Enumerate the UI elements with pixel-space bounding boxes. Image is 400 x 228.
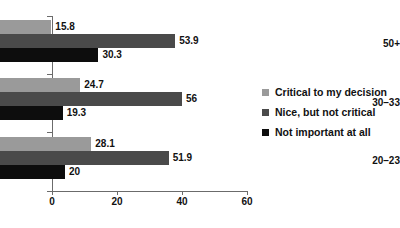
bar-row: 51.9 (0, 151, 400, 165)
bar-critical-to-my-decision[interactable] (0, 78, 80, 92)
x-axis-tick (182, 191, 183, 195)
bar-nice-but-not-critical[interactable] (0, 34, 175, 48)
x-axis-tick (247, 191, 248, 195)
bar-chart: 0 20 40 60 50+ 30–33 20–23 15.8 53.9 30.… (0, 0, 400, 228)
bar-value-label: 30.3 (98, 48, 121, 62)
bar-row: 30.3 (0, 48, 400, 62)
legend-item-label: Critical to my decision (275, 87, 387, 98)
legend-swatch-icon (262, 89, 269, 96)
bar-value-label: 24.7 (80, 78, 103, 92)
bar-value-label: 53.9 (175, 34, 198, 48)
bar-row: 20 (0, 165, 400, 179)
legend-item-not-important-at-all[interactable]: Not important at all (262, 122, 387, 142)
bar-value-label: 15.8 (51, 20, 74, 34)
x-axis-tick (117, 191, 118, 195)
chart-legend: Critical to my decision Nice, but not cr… (262, 82, 387, 142)
legend-swatch-icon (262, 129, 269, 136)
x-axis-tick-label: 60 (241, 196, 252, 207)
bar-row: 53.9 (0, 34, 400, 48)
bar-value-label: 56 (182, 92, 197, 106)
bar-critical-to-my-decision[interactable] (0, 137, 91, 151)
y-axis-tick (47, 132, 52, 133)
legend-item-label: Nice, but not critical (275, 107, 375, 118)
bar-nice-but-not-critical[interactable] (0, 92, 182, 106)
legend-item-nice-but-not-critical[interactable]: Nice, but not critical (262, 102, 387, 122)
bar-row: 15.8 (0, 20, 400, 34)
legend-swatch-icon (262, 109, 269, 116)
x-axis-tick (52, 191, 53, 195)
bar-value-label: 19.3 (63, 106, 86, 120)
y-axis-tick (47, 74, 52, 75)
bar-group: 28.1 51.9 20 (0, 137, 400, 179)
legend-item-label: Not important at all (275, 127, 371, 138)
bar-nice-but-not-critical[interactable] (0, 151, 169, 165)
bar-not-important-at-all[interactable] (0, 48, 98, 62)
x-axis-tick-label: 40 (176, 196, 187, 207)
bar-not-important-at-all[interactable] (0, 106, 63, 120)
legend-item-critical-to-my-decision[interactable]: Critical to my decision (262, 82, 387, 102)
x-axis-line (52, 191, 248, 192)
bar-value-label: 28.1 (91, 137, 114, 151)
bar-value-label: 51.9 (169, 151, 192, 165)
x-axis-tick-label: 0 (49, 196, 55, 207)
bar-group: 15.8 53.9 30.3 (0, 20, 400, 62)
bar-critical-to-my-decision[interactable] (0, 20, 51, 34)
x-axis-tick-label: 20 (111, 196, 122, 207)
bar-value-label: 20 (65, 165, 80, 179)
y-axis-tick (47, 16, 52, 17)
bar-not-important-at-all[interactable] (0, 165, 65, 179)
